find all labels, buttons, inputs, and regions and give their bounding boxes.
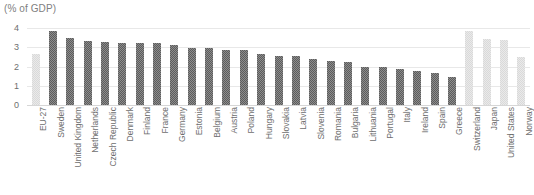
- x-axis-tick-label: Slovenia: [317, 107, 325, 140]
- bar: [170, 45, 178, 105]
- x-axis-tick-label: Finland: [143, 107, 151, 135]
- x-axis-tick-label: United Kingdom: [74, 107, 82, 167]
- bar: [344, 62, 352, 105]
- bar: [49, 31, 57, 105]
- x-axis-tick-label: Germany: [178, 107, 186, 142]
- bar: [32, 54, 40, 105]
- x-axis-tick-label: United States: [507, 107, 515, 158]
- bar: [517, 57, 525, 105]
- x-axis-tick-label: Czech Republic: [109, 107, 117, 167]
- bar: [222, 50, 230, 105]
- x-axis-tick-label: Italy: [403, 107, 411, 123]
- x-axis-tick-label: Romania: [334, 107, 342, 141]
- x-axis-tick-label: Poland: [247, 107, 255, 133]
- gridline-0: [27, 105, 530, 106]
- bar: [205, 48, 213, 105]
- bar: [84, 41, 92, 105]
- y-axis-tick-1: 1: [14, 81, 19, 90]
- x-axis-tick-label: Latvia: [299, 107, 307, 130]
- y-axis-tick-3: 3: [14, 43, 19, 52]
- bar: [153, 43, 161, 105]
- bar: [292, 56, 300, 105]
- y-axis-tick-0: 0: [14, 101, 19, 110]
- y-axis-tick-4: 4: [14, 24, 19, 33]
- bar: [379, 67, 387, 105]
- x-axis-tick-label: EU-27: [39, 107, 47, 131]
- x-axis-tick-label: Bulgaria: [351, 107, 359, 138]
- x-axis-tick-label: Ireland: [421, 107, 429, 133]
- x-axis-tick-label: Estonia: [195, 107, 203, 135]
- bar: [361, 67, 369, 106]
- bar: [101, 42, 109, 105]
- bar: [136, 43, 144, 105]
- x-axis-tick-label: Austria: [230, 107, 238, 133]
- x-axis-tick-label: Netherlands: [91, 107, 99, 153]
- x-axis-tick-label: Hungary: [265, 107, 273, 139]
- y-axis: 01234: [0, 28, 24, 105]
- bar: [396, 69, 404, 105]
- bar: [483, 39, 491, 105]
- bar: [465, 31, 473, 105]
- bar: [431, 73, 439, 105]
- bars-layer: [27, 28, 530, 105]
- x-axis-tick-label: Norway: [525, 107, 533, 136]
- x-axis-tick-label: Belgium: [213, 107, 221, 138]
- bar: [275, 56, 283, 105]
- x-axis-labels: EU-27SwedenUnited KingdomNetherlandsCzec…: [27, 107, 530, 195]
- x-axis-tick-label: Lithuania: [369, 107, 377, 142]
- x-axis-tick-label: Portugal: [386, 107, 394, 139]
- y-axis-tick-2: 2: [14, 62, 19, 71]
- x-axis-tick-label: Slovakia: [282, 107, 290, 139]
- x-axis-tick-label: Sweden: [57, 107, 65, 138]
- x-axis-tick-label: Greece: [455, 107, 463, 135]
- bar: [118, 43, 126, 105]
- x-axis-tick-label: Spain: [438, 107, 446, 129]
- x-axis-tick-label: Denmark: [126, 107, 134, 141]
- bar: [309, 59, 317, 105]
- x-axis-tick-label: Japan: [490, 107, 498, 130]
- bar: [188, 48, 196, 105]
- x-axis-tick-label: France: [161, 107, 169, 133]
- bar: [448, 77, 456, 105]
- bar: [413, 71, 421, 105]
- bar-chart: (% of GDP) 01234 EU-27SwedenUnited Kingd…: [0, 0, 534, 195]
- chart-title: (% of GDP): [4, 3, 56, 14]
- bar: [66, 38, 74, 105]
- bar: [327, 61, 335, 105]
- bar: [500, 40, 508, 105]
- x-axis-tick-label: Switzerland: [473, 107, 481, 151]
- bar: [240, 50, 248, 105]
- bar: [257, 54, 265, 105]
